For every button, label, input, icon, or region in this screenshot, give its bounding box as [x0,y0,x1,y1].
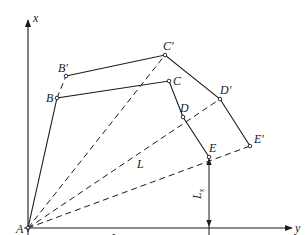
displaced-linkage [66,55,250,146]
x-axis-label: x [32,11,39,25]
ray-a-dprime [28,99,220,228]
point-d [181,115,185,119]
label-c: C [173,74,182,88]
point-cprime [163,53,167,57]
label-dprime: D′ [219,83,232,97]
label-lx: Lx [190,188,206,200]
point-markers [26,53,252,230]
label-a: A [15,222,24,235]
label-bprime: B′ [58,61,68,75]
label-ly: Ly [110,231,122,235]
label-b: B [46,91,54,105]
label-e: E [208,141,217,155]
point-b [55,96,59,100]
ray-b-bprime [57,76,66,98]
label-cprime: C′ [163,39,174,53]
point-eprime [248,144,252,148]
label-l: L [136,157,144,171]
label-eprime: E′ [253,132,264,146]
displacement-diagram: x y A B B′ C C′ D D′ E E′ L Lx Ly [0,0,308,235]
point-e [207,155,211,159]
point-c [167,79,171,83]
y-axis-label: y [294,221,301,235]
label-d: D [179,101,189,115]
svg-text:Lx: Lx [190,188,206,200]
point-dprime [218,97,222,101]
axes [24,20,292,232]
dashed-rays [28,55,250,228]
ray-a-cprime [28,55,165,228]
